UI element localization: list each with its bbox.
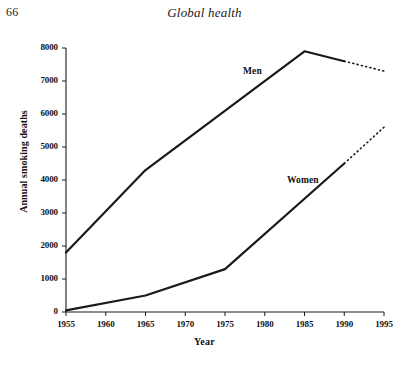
page-container: 66 Global health Annual smoking deaths Y… bbox=[0, 0, 409, 365]
series-line-women bbox=[66, 164, 344, 311]
line-chart-figure: Annual smoking deaths Year 0100020003000… bbox=[0, 28, 409, 365]
y-axis-tick-label: 8000 bbox=[14, 42, 58, 52]
x-axis-tick-label: 1955 bbox=[44, 319, 88, 329]
x-axis-tick-label: 1965 bbox=[124, 319, 168, 329]
y-axis-tick-label: 7000 bbox=[14, 75, 58, 85]
x-axis-tick-label: 1980 bbox=[243, 319, 287, 329]
y-axis-tick-label: 6000 bbox=[14, 108, 58, 118]
series-label-women: Women bbox=[287, 175, 319, 185]
series-projection-men bbox=[344, 61, 384, 71]
series-line-men bbox=[66, 51, 344, 252]
y-axis-tick-label: 0 bbox=[14, 306, 58, 316]
x-axis-tick-label: 1975 bbox=[203, 319, 247, 329]
x-axis-title: Year bbox=[0, 336, 409, 347]
y-axis-tick-label: 4000 bbox=[14, 174, 58, 184]
running-head: Global health bbox=[0, 5, 409, 21]
y-axis-tick-label: 5000 bbox=[14, 141, 58, 151]
x-axis-tick-label: 1995 bbox=[362, 319, 406, 329]
x-axis-tick-label: 1960 bbox=[84, 319, 128, 329]
y-axis-title: Annual smoking deaths bbox=[18, 102, 29, 222]
x-axis-tick-label: 1985 bbox=[283, 319, 327, 329]
chart-plot-area bbox=[0, 28, 409, 365]
x-axis-tick-label: 1970 bbox=[163, 319, 207, 329]
y-axis-tick-label: 3000 bbox=[14, 207, 58, 217]
y-axis-tick-label: 2000 bbox=[14, 240, 58, 250]
x-axis-ticks bbox=[66, 312, 384, 316]
y-axis-tick-label: 1000 bbox=[14, 273, 58, 283]
x-axis-tick-label: 1990 bbox=[322, 319, 366, 329]
series-label-men: Men bbox=[243, 66, 262, 76]
y-axis-ticks bbox=[62, 48, 66, 312]
data-series-group bbox=[66, 51, 384, 310]
series-projection-women bbox=[344, 127, 384, 163]
